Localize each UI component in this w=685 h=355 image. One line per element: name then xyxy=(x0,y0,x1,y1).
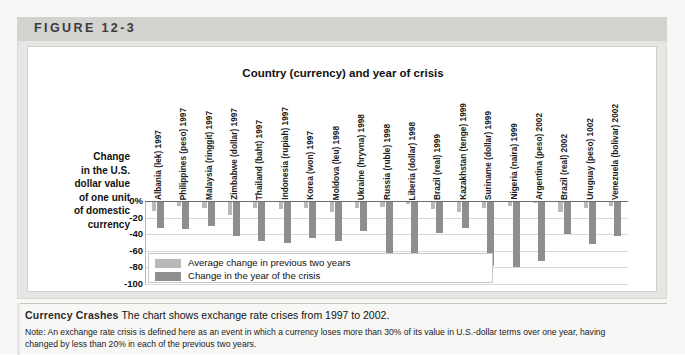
bar-crisis-change xyxy=(436,201,443,233)
legend-label: Average change in previous two years xyxy=(188,257,350,268)
legend-label: Change in the year of the crisis xyxy=(188,270,320,281)
bar-average-change xyxy=(457,201,461,212)
bar-crisis-change xyxy=(335,201,342,241)
caption-left-accent xyxy=(17,303,20,355)
x-axis-label: Brazil (real) 1999 xyxy=(433,134,441,200)
x-axis-label: Russia (ruble) 1998 xyxy=(383,124,391,200)
legend-swatch xyxy=(155,272,181,281)
y-axis-caption-line-1: Change xyxy=(8,150,130,164)
chart-title: Country (currency) and year of crisis xyxy=(28,67,658,79)
caption-line: Currency Crashes The chart shows exchang… xyxy=(25,309,389,321)
x-axis-label: Korea (won) 1997 xyxy=(306,131,314,200)
bar-crisis-change xyxy=(513,201,520,267)
x-axis-label: Venezuela (bolivar) 2002 xyxy=(611,104,619,200)
caption-title: Currency Crashes xyxy=(25,309,119,321)
caption-divider xyxy=(17,303,667,304)
y-tick-label: -20 xyxy=(103,212,143,223)
x-axis-label: Philippines (peso) 1997 xyxy=(179,108,187,200)
bar-crisis-change xyxy=(233,201,240,236)
bar-average-change xyxy=(558,201,562,212)
bar-average-change xyxy=(152,201,156,211)
y-axis-caption-line-3: dollar value xyxy=(8,177,130,191)
bar-crisis-change xyxy=(258,201,265,241)
bar-group xyxy=(552,201,577,284)
bar-crisis-change xyxy=(360,201,367,231)
caption-text: The chart shows exchange rate crises fro… xyxy=(121,309,389,321)
chart-legend: Average change in previous two yearsChan… xyxy=(148,253,493,283)
y-axis-caption-line-2: in the U.S. xyxy=(8,164,130,178)
x-axis-label: Brazil (real) 2002 xyxy=(560,134,568,200)
x-axis-label: Zimbabwe (dollar) 1997 xyxy=(230,108,238,200)
bar-group xyxy=(501,201,526,284)
x-axis-label: Suriname (dollar) 1999 xyxy=(484,111,492,200)
x-axis-label: Thailand (baht) 1997 xyxy=(255,120,263,200)
y-tick-label: -100 xyxy=(103,278,143,289)
caption-note-line-1: Note: An exchange rate crisis is defined… xyxy=(25,327,605,337)
y-tick-label: -40 xyxy=(103,228,143,239)
x-axis-label: Indonesia (rupiah) 1997 xyxy=(281,107,289,200)
y-tick-label: 0% xyxy=(103,195,143,206)
x-axis-label: Nigeria (naira) 1999 xyxy=(510,123,518,200)
bar-crisis-change xyxy=(309,201,316,238)
bar-crisis-change xyxy=(182,201,189,229)
bar-crisis-change xyxy=(564,201,571,234)
bar-crisis-change xyxy=(157,201,164,228)
x-axis-label: Argentina (peso) 2002 xyxy=(535,113,543,200)
x-axis-label: Uruguay (peso) 1002 xyxy=(586,118,594,200)
x-axis-label: Ukraine (hryvna) 1998 xyxy=(357,114,365,200)
figure-number-label: FIGURE 12-3 xyxy=(34,21,136,35)
y-tick-label: -60 xyxy=(103,245,143,256)
grid-line xyxy=(145,284,628,285)
legend-swatch xyxy=(155,259,181,268)
x-axis-label: Liberia (dollar) 1998 xyxy=(408,122,416,200)
x-axis-label: Malaysia (ringgit) 1997 xyxy=(205,111,213,200)
bar-crisis-change xyxy=(589,201,596,244)
caption-note-line-2: changed by less than 20% in each of the … xyxy=(25,339,256,349)
bar-group xyxy=(526,201,551,284)
x-axis-label: Albania (lek) 1997 xyxy=(154,130,162,200)
bar-average-change xyxy=(228,201,232,215)
bar-crisis-change xyxy=(538,201,545,261)
bar-group xyxy=(603,201,628,284)
bar-crisis-change xyxy=(462,201,469,228)
y-axis-ticks: 0%-20-40-60-80-100 xyxy=(99,201,143,284)
x-axis-label: Kazakhstan (tenge) 1999 xyxy=(459,103,467,200)
zero-line xyxy=(145,201,628,202)
y-tick-label: -80 xyxy=(103,261,143,272)
bar-average-change xyxy=(330,201,334,212)
bar-group xyxy=(577,201,602,284)
bar-crisis-change xyxy=(208,201,215,226)
x-axis-labels: Albania (lek) 1997Philippines (peso) 199… xyxy=(145,96,628,200)
bar-crisis-change xyxy=(614,201,621,236)
x-axis-label: Moldova (leu) 1998 xyxy=(332,126,340,200)
bar-crisis-change xyxy=(284,201,291,243)
